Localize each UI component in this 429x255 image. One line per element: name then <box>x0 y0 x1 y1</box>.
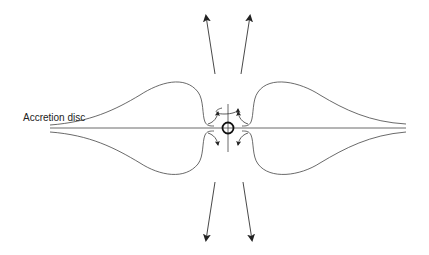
accretion-disc-label: Accretion disc <box>23 112 85 123</box>
accretion-disc-diagram: Accretion disc <box>0 0 429 255</box>
jet-arrow-upper-left <box>206 16 215 74</box>
diagram-drawing <box>0 0 429 255</box>
jet-arrow-lower-left <box>206 182 215 240</box>
disc-right-lower-edge <box>242 131 406 174</box>
jet-arrow-upper-right <box>241 16 250 74</box>
inflow-arrow-lower-left <box>208 133 218 145</box>
rotation-arrow <box>216 108 238 114</box>
disc-right-upper-edge <box>242 82 406 126</box>
inflow-arrow-lower-right <box>238 133 248 145</box>
inflow-arrow-upper-right <box>238 112 248 124</box>
jet-arrow-lower-right <box>243 182 252 240</box>
inflow-arrow-upper-left <box>208 112 218 124</box>
disc-left-lower-edge <box>50 131 214 174</box>
